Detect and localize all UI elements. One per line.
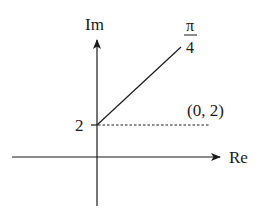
tick-label-2: 2 xyxy=(75,116,84,135)
ray-line xyxy=(97,47,181,125)
angle-denominator: 4 xyxy=(186,39,194,56)
im-axis-label: Im xyxy=(85,15,104,34)
complex-plane-diagram: Im Re 2 (0, 2) π 4 xyxy=(0,0,259,209)
angle-numerator: π xyxy=(186,17,194,34)
point-label: (0, 2) xyxy=(187,101,224,120)
re-axis-label: Re xyxy=(229,148,248,167)
